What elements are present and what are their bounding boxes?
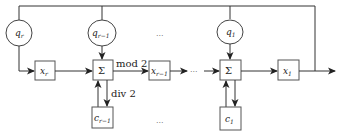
x-1-register: x1 (278, 60, 299, 80)
q-r-node: qr (6, 20, 32, 46)
svg-text:Σ: Σ (98, 65, 105, 76)
c-r-minus-1-register: cr−1 (92, 107, 113, 128)
mod-2-label: mod 2 (116, 58, 147, 69)
diagram-canvas: qr xr qr−1 Σ mod 2 div 2 cr−1 xr−1 ··· ·… (0, 0, 338, 139)
q-1-node: q1 (217, 20, 243, 44)
sum-block-2: Σ (220, 60, 241, 80)
ellipsis-middle: ··· (190, 67, 198, 76)
q-r-minus-1-node: qr−1 (88, 20, 116, 46)
q-r-to-x-r-arrow (19, 46, 34, 71)
c-1-register: c1 (220, 107, 241, 130)
div-2-label: div 2 (111, 88, 136, 99)
sum-block-1: Σ (93, 60, 113, 80)
ellipsis-bottom: ··· (156, 118, 164, 127)
x-r-register: xr (35, 61, 55, 80)
svg-text:Σ: Σ (225, 65, 232, 76)
ellipsis-top: ··· (156, 31, 164, 40)
x-r-minus-1-register: xr−1 (149, 61, 170, 80)
